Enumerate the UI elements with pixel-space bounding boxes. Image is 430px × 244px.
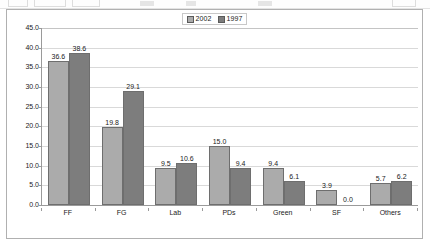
y-axis-tick-label: 10.0 (25, 162, 39, 170)
bar[interactable]: 38.6 (69, 53, 90, 205)
x-axis-label: FG (95, 208, 149, 217)
x-axis-labels: FFFGLabPDsGreenSFOthers (41, 208, 417, 217)
bar-group: 9.510.6 (149, 28, 203, 205)
bar-value-label: 9.4 (268, 160, 278, 168)
y-axis-tick-label: 25.0 (25, 103, 39, 111)
x-axis-label: Lab (148, 208, 202, 217)
bar[interactable]: 19.8 (102, 127, 123, 205)
bar-value-label: 29.1 (126, 83, 140, 91)
y-axis-tick-label: 30.0 (25, 83, 39, 91)
y-axis-tick-label: 45.0 (25, 24, 39, 32)
plot-wrapper: 45.040.035.030.025.020.015.010.05.00.0 3… (7, 10, 422, 238)
toolbar-ghost-button (8, 0, 28, 7)
x-tick-mark (417, 208, 418, 211)
bar-value-label: 10.6 (180, 155, 194, 163)
bar-value-label: 36.6 (52, 53, 66, 61)
x-tick-mark (256, 208, 257, 211)
x-tick-mark (310, 208, 311, 211)
x-axis-label: FF (41, 208, 95, 217)
bar[interactable]: 10.6 (176, 163, 197, 205)
toolbar-ghost-button (258, 1, 272, 6)
bar-value-label: 6.2 (397, 173, 407, 181)
x-tick-mark (41, 208, 42, 211)
bar-group: 3.90.0 (311, 28, 365, 205)
y-axis-tick-label: 20.0 (25, 122, 39, 130)
bar-group: 36.638.6 (42, 28, 96, 205)
bar-value-label: 3.9 (322, 182, 332, 190)
bar[interactable]: 5.7 (370, 183, 391, 205)
bar[interactable]: 3.9 (316, 190, 337, 205)
x-tick-mark (95, 208, 96, 211)
bar-group: 15.09.4 (203, 28, 257, 205)
bar[interactable]: 9.4 (263, 168, 284, 205)
x-axis-label: PDs (202, 208, 256, 217)
bar[interactable]: 29.1 (123, 91, 144, 205)
bar-groups: 36.638.619.829.19.510.615.09.49.46.13.90… (42, 28, 418, 205)
x-tick-mark (202, 208, 203, 211)
bar-value-label: 6.1 (289, 173, 299, 181)
x-tick-mark (363, 208, 364, 211)
bar[interactable]: 15.0 (209, 146, 230, 205)
toolbar-fragment (0, 0, 430, 9)
bar[interactable]: 9.5 (155, 168, 176, 205)
y-axis-tick-label: 35.0 (25, 63, 39, 71)
bar[interactable]: 36.6 (48, 61, 69, 205)
bar-group: 9.46.1 (257, 28, 311, 205)
bar-value-label: 0.0 (343, 196, 353, 204)
bar[interactable]: 6.2 (391, 181, 412, 205)
chart-container[interactable]: 2002 1997 45.040.035.030.025.020.015.010… (6, 9, 423, 239)
plot-area: 45.040.035.030.025.020.015.010.05.00.0 3… (41, 28, 418, 206)
y-axis-tick-label: 40.0 (25, 44, 39, 52)
y-tick-mark (39, 205, 42, 206)
y-axis-tick-label: 15.0 (25, 142, 39, 150)
toolbar-ghost-button (72, 0, 100, 7)
bar-group: 19.829.1 (96, 28, 150, 205)
x-axis-label: Green (256, 208, 310, 217)
bar-group: 5.76.2 (364, 28, 418, 205)
bar-value-label: 9.4 (236, 160, 246, 168)
bar-value-label: 38.6 (73, 45, 87, 53)
x-axis-label: SF (310, 208, 364, 217)
screenshot-root: 2002 1997 45.040.035.030.025.020.015.010… (0, 0, 430, 244)
bar-value-label: 9.5 (161, 160, 171, 168)
y-axis-tick-label: 5.0 (29, 181, 39, 189)
toolbar-ghost-button (140, 1, 154, 6)
bar-value-label: 19.8 (105, 119, 119, 127)
x-axis-label: Others (363, 208, 417, 217)
toolbar-ghost-button (392, 0, 416, 7)
x-tick-mark (148, 208, 149, 211)
bar[interactable]: 9.4 (230, 168, 251, 205)
bar-value-label: 15.0 (213, 138, 227, 146)
toolbar-ghost-button (34, 0, 66, 7)
bar[interactable]: 6.1 (284, 181, 305, 205)
toolbar-ghost-button (186, 1, 196, 6)
bar-value-label: 5.7 (376, 175, 386, 183)
y-axis-tick-label: 0.0 (29, 201, 39, 209)
